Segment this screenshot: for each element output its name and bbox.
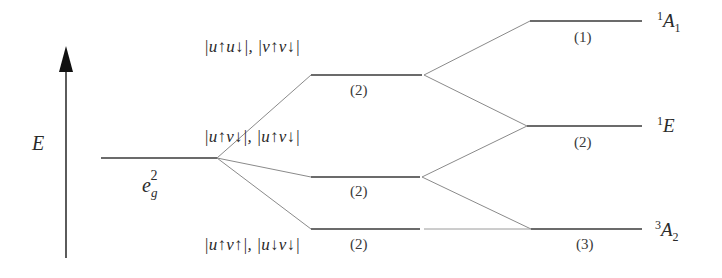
- connector: [422, 126, 527, 177]
- config-sup: 2: [150, 168, 157, 183]
- term-letter: E: [663, 115, 675, 136]
- degeneracy-1A1: (1): [574, 29, 592, 46]
- degeneracy-mid-2: (2): [350, 183, 368, 200]
- ket-label-middle: |u↑v↓|, |u↑v↓|: [204, 127, 300, 147]
- term-letter: A: [661, 219, 673, 240]
- axis-arrowhead-icon: [59, 46, 73, 72]
- degeneracy-mid-3: (2): [350, 236, 368, 253]
- ket-label-bottom: |u↑v↑|, |u↓v↓|: [204, 235, 300, 255]
- degeneracy-1E: (2): [574, 134, 592, 151]
- ket-label-top: |u↑u↓|, |v↑v↓|: [204, 37, 300, 57]
- config-label: eg2: [142, 172, 164, 201]
- term-sub: 2: [673, 230, 679, 244]
- term-sub: 1: [675, 21, 681, 35]
- degeneracy-mid-1: (2): [350, 82, 368, 99]
- term-1A1: 1A1: [657, 9, 681, 36]
- connector: [424, 21, 530, 75]
- axis-label-e: E: [32, 132, 44, 155]
- term-letter: A: [663, 10, 675, 31]
- connector: [217, 158, 311, 177]
- connector: [217, 158, 311, 229]
- term-3A2: 3A2: [655, 218, 679, 245]
- degeneracy-3A2: (3): [576, 236, 594, 253]
- config-sub: g: [151, 185, 158, 200]
- connector: [424, 75, 527, 126]
- connector: [422, 177, 531, 229]
- term-1E: 1E: [657, 114, 675, 137]
